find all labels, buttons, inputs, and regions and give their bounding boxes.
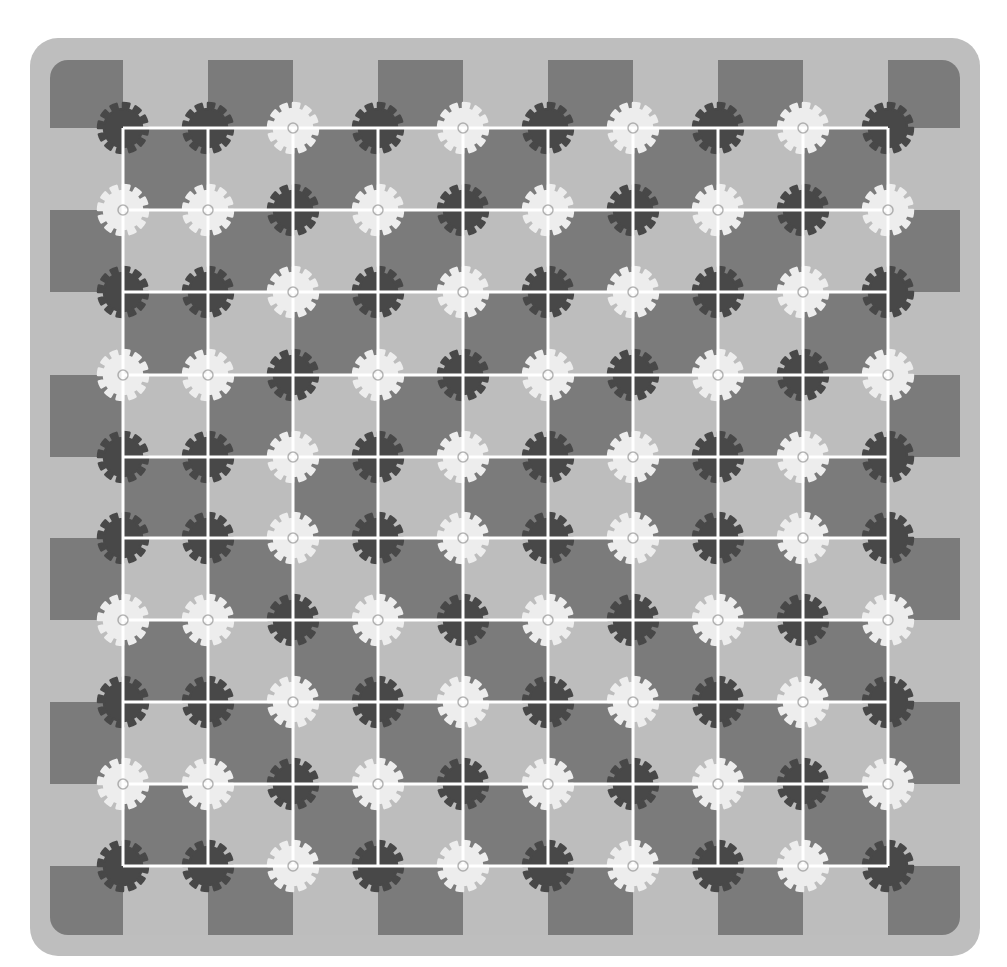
checkerboard-gear-illusion (0, 0, 1007, 967)
illusion-canvas (0, 0, 1007, 967)
checkerboard (50, 60, 960, 935)
